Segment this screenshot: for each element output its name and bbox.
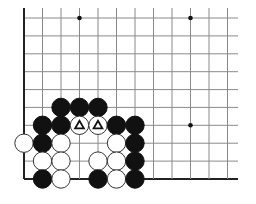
black-stone-body bbox=[33, 134, 51, 152]
star-point bbox=[188, 16, 193, 21]
black-stone-body bbox=[89, 98, 107, 116]
white-stone bbox=[52, 134, 70, 152]
white-stone-body bbox=[107, 152, 125, 170]
black-stone-body bbox=[89, 170, 107, 188]
white-stone bbox=[52, 170, 70, 188]
black-stone-body bbox=[107, 116, 125, 134]
white-stone bbox=[89, 116, 107, 134]
black-stone-body bbox=[126, 116, 144, 134]
black-stone bbox=[33, 170, 51, 188]
black-stone bbox=[33, 116, 51, 134]
white-stone-body bbox=[52, 170, 70, 188]
white-stone-body bbox=[52, 134, 70, 152]
black-stone bbox=[52, 116, 70, 134]
white-stone bbox=[107, 152, 125, 170]
black-stone bbox=[107, 116, 125, 134]
white-stone-body bbox=[33, 152, 51, 170]
black-stone-body bbox=[126, 134, 144, 152]
black-stone bbox=[33, 134, 51, 152]
white-stone-body bbox=[52, 152, 70, 170]
black-stone bbox=[52, 98, 70, 116]
black-stone bbox=[89, 98, 107, 116]
white-stone bbox=[89, 152, 107, 170]
white-stone-body bbox=[89, 116, 107, 134]
black-stone-body bbox=[33, 170, 51, 188]
star-point bbox=[188, 123, 193, 128]
black-stone bbox=[126, 116, 144, 134]
black-stone-body bbox=[126, 152, 144, 170]
white-stone-body bbox=[70, 116, 88, 134]
black-stone-body bbox=[52, 98, 70, 116]
white-stone-body bbox=[107, 170, 125, 188]
black-stone bbox=[89, 170, 107, 188]
black-stone-body bbox=[33, 116, 51, 134]
white-stone bbox=[33, 152, 51, 170]
star-point bbox=[77, 16, 82, 21]
black-stone bbox=[126, 152, 144, 170]
white-stone bbox=[107, 134, 125, 152]
white-stone bbox=[15, 134, 33, 152]
white-stone-body bbox=[107, 134, 125, 152]
white-stone bbox=[70, 116, 88, 134]
white-stone bbox=[107, 170, 125, 188]
black-stone-body bbox=[52, 116, 70, 134]
black-stone-body bbox=[70, 98, 88, 116]
black-stone bbox=[70, 98, 88, 116]
white-stone bbox=[52, 152, 70, 170]
black-stone bbox=[126, 134, 144, 152]
black-stone bbox=[126, 170, 144, 188]
go-board bbox=[0, 0, 256, 204]
white-stone-body bbox=[89, 152, 107, 170]
black-stone-body bbox=[126, 170, 144, 188]
white-stone-body bbox=[15, 134, 33, 152]
